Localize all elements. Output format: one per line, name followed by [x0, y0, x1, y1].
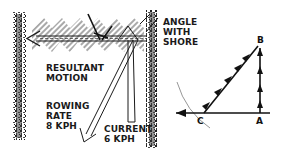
resultant-label-line2: MOTION — [46, 73, 104, 83]
river-vector-diagram: RESULTANT MOTION ROWING RATE 8 KPH CURRE… — [0, 0, 282, 160]
angle-label-line2: WITH — [163, 27, 198, 37]
current-wave-band — [32, 18, 144, 52]
point-c-label: C — [197, 117, 204, 126]
arrowhead-c — [176, 109, 186, 117]
segment-bc — [204, 46, 258, 113]
angle-label-line1: ANGLE — [163, 17, 198, 27]
current-label-line1: CURRENT — [104, 124, 152, 134]
resultant-motion-label: RESULTANT MOTION — [46, 63, 104, 83]
rowing-label-line2: RATE — [46, 111, 89, 121]
resultant-label-line1: RESULTANT — [46, 63, 104, 73]
rowing-label-line3: 8 KPH — [46, 121, 89, 131]
point-b-label: B — [257, 36, 264, 45]
angle-with-shore-label: ANGLE WITH SHORE — [163, 17, 198, 47]
point-a-label: A — [256, 117, 263, 126]
current-label: CURRENT 6 KPH — [104, 124, 152, 144]
rowing-label-line1: ROWING — [46, 101, 89, 111]
rowing-rate-label: ROWING RATE 8 KPH — [46, 101, 89, 131]
current-label-line2: 6 KPH — [104, 134, 152, 144]
angle-label-line3: SHORE — [163, 37, 198, 47]
left-shore — [13, 12, 26, 140]
